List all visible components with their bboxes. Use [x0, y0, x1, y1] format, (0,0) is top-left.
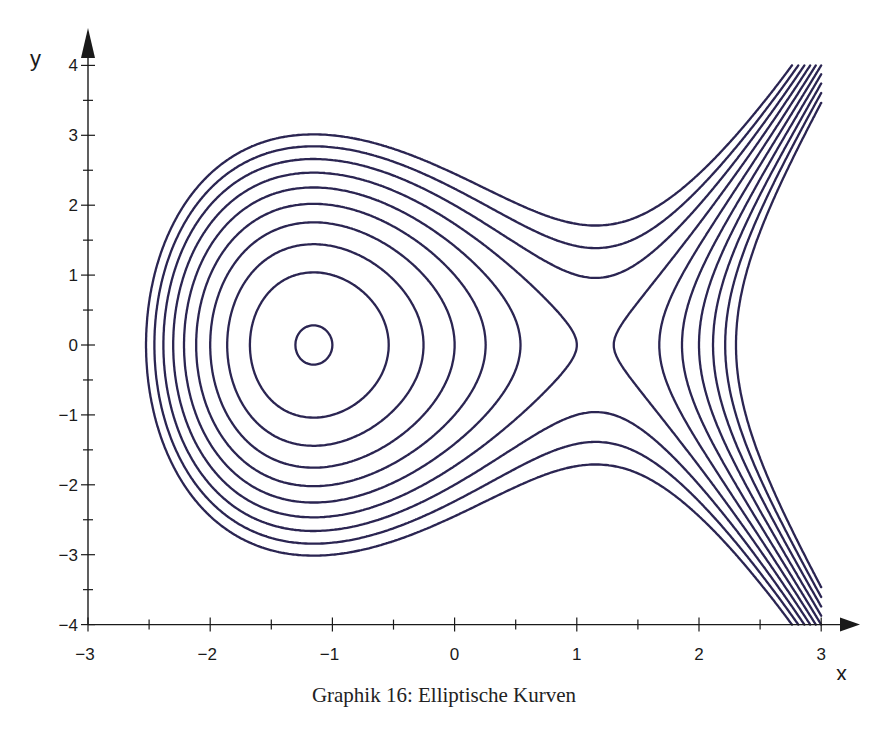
- y-tick-label: −1: [59, 406, 78, 425]
- y-tick-label: 2: [69, 196, 78, 215]
- curve-c-3: [173, 65, 810, 624]
- curve-c--1: [227, 84, 821, 607]
- y-tick-label: −2: [59, 476, 78, 495]
- y-tick-label: −3: [59, 546, 78, 565]
- curve-c-4: [163, 65, 804, 624]
- x-axis-arrow-icon: [840, 618, 860, 632]
- x-axis-label: x: [836, 661, 847, 680]
- curve-c-1: [196, 65, 821, 624]
- figure-caption: Graphik 16: Elliptische Kurven: [0, 683, 888, 708]
- curve-family: [146, 65, 821, 624]
- curve-c-6: [146, 65, 792, 624]
- y-tick-label: 3: [69, 126, 78, 145]
- y-axis-arrow-icon: [81, 28, 95, 58]
- x-tick-label: 1: [572, 645, 581, 664]
- y-axis-label: y: [30, 46, 41, 71]
- x-tick-label: −3: [75, 645, 94, 664]
- x-tick-label: −2: [198, 645, 217, 664]
- y-tick-label: 4: [69, 56, 78, 75]
- x-tick-label: 3: [816, 645, 825, 664]
- y-tick-label: 0: [69, 336, 78, 355]
- x-tick-label: 0: [450, 645, 459, 664]
- curve-c--3: [295, 103, 821, 587]
- axes: −3−2−10123−4−3−2−101234: [59, 28, 860, 664]
- y-tick-label: −4: [59, 616, 78, 635]
- y-tick-label: 1: [69, 266, 78, 285]
- x-tick-label: 2: [694, 645, 703, 664]
- elliptic-curves-chart: −3−2−10123−4−3−2−101234 y x: [0, 0, 888, 680]
- x-tick-label: −1: [320, 645, 339, 664]
